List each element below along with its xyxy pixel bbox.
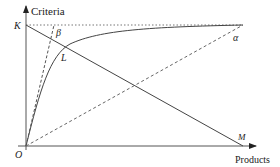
- x-axis-label: Products: [235, 154, 270, 165]
- point-k-label: K: [13, 20, 22, 31]
- point-m-label: M: [237, 132, 246, 142]
- angle-beta-label: β: [55, 27, 61, 38]
- angle-alpha-label: α: [233, 32, 239, 43]
- point-l-label: L: [60, 52, 67, 63]
- diagram-canvas: Criteria Products O K L M β α: [0, 0, 280, 167]
- y-axis-label: Criteria: [31, 5, 65, 17]
- origin-label: O: [15, 149, 22, 160]
